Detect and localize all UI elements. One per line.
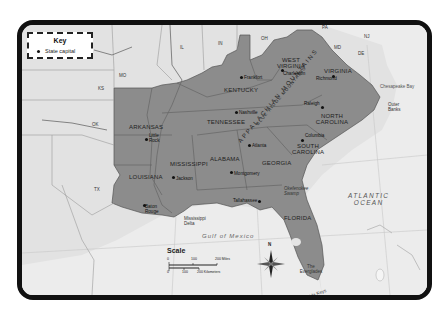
label-md: MD <box>334 46 341 51</box>
label-outer-banks: Outer Banks <box>388 103 404 112</box>
capital-dot-icon <box>301 139 304 142</box>
map-key: Key State capital <box>27 32 93 59</box>
capital-jackson: Jackson <box>176 177 193 182</box>
label-north-carolina: NORTH CAROLINA <box>315 113 349 125</box>
label-mo: MO <box>119 74 126 79</box>
label-okefenokee-swamp: Okefenokee Swamp <box>284 187 310 196</box>
label-oh: OH <box>261 37 268 42</box>
capital-richmond: Richmond <box>316 77 337 82</box>
capital-dot-icon <box>172 176 175 179</box>
key-item-label: State capital <box>45 48 75 54</box>
capital-dot-icon <box>258 200 261 203</box>
scale-bar: Scale 0 100 200 Miles 0 100 200 Kilomete… <box>167 247 237 277</box>
capital-dot-icon <box>240 76 243 79</box>
label-tx: TX <box>94 188 100 193</box>
label-in: IN <box>218 42 223 47</box>
label-gulf-of-mexico: Gulf of Mexico <box>202 233 254 239</box>
capital-dot-icon <box>145 138 148 141</box>
key-item-state-capital: State capital <box>37 48 75 54</box>
capital-little-rock: Little Rock <box>149 134 161 143</box>
compass-north-label: N <box>268 243 271 248</box>
label-de: DE <box>358 52 364 57</box>
label-ok: OK <box>92 123 99 128</box>
map-frame: Key State capital MO KS OK TX IL IN OH P… <box>17 20 432 300</box>
capital-atlanta: Atlanta <box>252 144 266 149</box>
capital-montgomery: Montgomery <box>234 172 260 177</box>
capital-tallahassee: Tallahassee <box>233 199 257 204</box>
capital-dot-icon <box>235 111 238 114</box>
label-mississippi-delta: Mississippi Delta <box>184 217 204 226</box>
key-title: Key <box>29 37 91 44</box>
label-south-carolina: SOUTH CAROLINA <box>292 143 324 155</box>
label-florida: FLORIDA <box>284 215 311 221</box>
label-alabama: ALABAMA <box>210 156 240 162</box>
label-atlantic-ocean: ATLANTIC OCEAN <box>348 193 389 206</box>
capital-dot-icon <box>248 144 251 147</box>
capital-raleigh: Raleigh <box>304 102 320 107</box>
label-tennessee: TENNESSEE <box>207 119 245 125</box>
scale-title: Scale <box>167 247 237 254</box>
label-nj: NJ <box>364 35 370 40</box>
label-everglades: The Everglades <box>299 265 323 274</box>
capital-nashville: Nashville <box>239 111 258 116</box>
capital-dot-icon <box>37 50 40 53</box>
capital-baton-rouge: Baton Rouge <box>145 205 161 214</box>
label-mississippi: MISSISSIPPI <box>170 161 208 167</box>
label-arkansas: ARKANSAS <box>129 124 163 130</box>
capital-dot-icon <box>321 106 324 109</box>
label-georgia: GEORGIA <box>262 160 291 166</box>
label-il: IL <box>180 46 184 51</box>
capital-columbia: Columbia <box>305 134 324 139</box>
label-kentucky: KENTUCKY <box>224 87 258 93</box>
label-virginia: VIRGINIA <box>324 68 352 74</box>
capital-frankfort: Frankfort <box>244 76 262 81</box>
label-chesapeake-bay: Chesapeake Bay <box>380 85 414 90</box>
label-ks: KS <box>98 87 104 92</box>
label-pa: PA <box>322 26 328 31</box>
label-louisiana: LOUISIANA <box>129 174 163 180</box>
capital-dot-icon <box>230 171 233 174</box>
